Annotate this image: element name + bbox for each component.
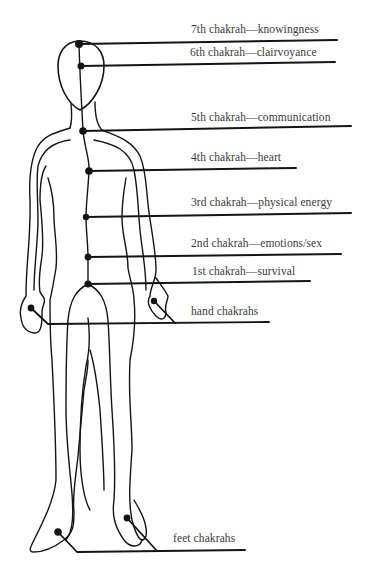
label-1st-chakra: 1st chakrah—survival [192, 266, 295, 278]
chakra-dot-3rd [83, 214, 89, 220]
body-outline-right [102, 130, 168, 319]
label-7th-chakra: 7th chakrah—knowingness [191, 24, 319, 36]
label-2nd-chakra: 2nd chakrah—emotions/sex [191, 238, 322, 250]
label-3rd-chakra: 3rd chakrah—physical energy [191, 197, 332, 209]
leader-line-5th [83, 126, 351, 131]
chakra-diagram: 7th chakrah—knowingness 6th chakrah—clai… [0, 0, 371, 583]
body-outline-left [20, 128, 70, 333]
leader-line-3rd [86, 213, 351, 217]
chakra-dot-4th [85, 167, 93, 175]
leg-inner [66, 284, 88, 540]
label-feet-chakras: feet chakrahs [173, 533, 235, 545]
arm-inner-right [94, 140, 146, 290]
chakra-dot-hand-right [151, 298, 157, 304]
crotch-line [80, 318, 90, 510]
label-hand-chakras: hand chakrahs [191, 306, 258, 318]
arm-inner-left [34, 140, 70, 290]
chakra-dot-foot-left [54, 528, 62, 536]
crotch-line-2 [90, 350, 104, 490]
spine-line [79, 44, 89, 284]
leader-line-hand-right [154, 301, 175, 323]
leader-line-1st [88, 281, 310, 284]
leader-line-4th [89, 168, 296, 171]
leader-line-7th [79, 40, 337, 44]
chakra-dot-6th [78, 63, 85, 70]
leader-line-2nd [88, 254, 341, 257]
chakra-dot-2nd [85, 254, 92, 261]
body-figure [0, 0, 371, 583]
label-4th-chakra: 4th chakrah—heart [191, 152, 281, 164]
torso-inner-arm-right [122, 178, 146, 540]
label-5th-chakra: 5th chakrah—communication [191, 112, 331, 124]
chakra-dot-1st [84, 280, 91, 287]
chakra-dot-foot-right [124, 515, 131, 522]
neck-right [95, 102, 102, 130]
chakra-dot-hand-left [28, 305, 35, 312]
chakra-dot-7th [75, 40, 83, 48]
neck-left [70, 104, 72, 128]
leader-line-6th [81, 62, 335, 66]
torso-inner-arm-left [30, 178, 88, 552]
label-6th-chakra: 6th chakrah—clairvoyance [190, 47, 317, 59]
chakra-dot-5th [79, 127, 87, 135]
